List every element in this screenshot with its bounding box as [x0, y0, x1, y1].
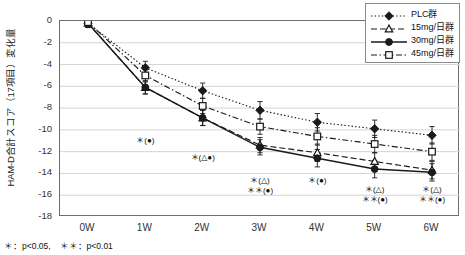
legend-swatch-icon [370, 21, 408, 33]
legend-swatch-icon [370, 8, 408, 20]
y-tick-label: -18 [18, 211, 56, 221]
data-point-marker [429, 148, 436, 155]
x-tick-label: 1W [137, 222, 152, 234]
data-point-marker [371, 166, 378, 173]
legend-label: 45mg/日群 [411, 47, 454, 59]
y-tick-label: -8 [18, 102, 56, 112]
data-point-marker [371, 141, 378, 148]
legend-item-15mg/日群[interactable]: 15mg/日群 [370, 20, 454, 33]
data-point-marker [314, 155, 321, 162]
x-tick-label: 5W [366, 222, 381, 234]
x-axis-tick-labels: 0W1W2W3W4W5W6W [59, 222, 459, 238]
legend-item-45mg/日群[interactable]: 45mg/日群 [370, 46, 454, 59]
y-tick-label: -14 [18, 167, 56, 177]
pvalue-legend-note: ＊：p<0.05, ＊＊：p<0.01 [4, 241, 113, 251]
data-point-marker [142, 72, 149, 79]
legend-swatch-icon [370, 47, 408, 59]
significance-annotation: ＊(●) [136, 136, 154, 145]
ham-d-line-chart: HAM-D合計スコア（17項目）変化量 0-2-4-6-8-10-12-14-1… [0, 0, 465, 255]
chart-legend: PLC群15mg/日群30mg/日群45mg/日群 [365, 3, 460, 63]
legend-label: 30mg/日群 [411, 34, 454, 46]
data-point-marker [385, 11, 393, 19]
significance-annotation: ＊＊(●) [419, 195, 445, 204]
data-point-marker [199, 115, 206, 122]
data-point-marker [199, 103, 206, 110]
data-point-marker [429, 169, 436, 176]
y-tick-label: -6 [18, 80, 56, 90]
y-tick-label: -2 [18, 37, 56, 47]
legend-label: PLC群 [411, 8, 438, 20]
data-point-marker [386, 38, 393, 45]
significance-annotation: ＊(△●) [191, 153, 215, 162]
data-point-marker [428, 131, 436, 139]
significance-annotation: ＊(△) [422, 185, 441, 194]
x-tick-label: 3W [252, 222, 267, 234]
data-point-marker [85, 21, 92, 25]
x-tick-label: 6W [424, 222, 439, 234]
data-point-marker [313, 118, 321, 126]
significance-annotation: ＊＊(●) [362, 195, 388, 204]
legend-item-30mg/日群[interactable]: 30mg/日群 [370, 33, 454, 46]
data-point-marker [257, 144, 264, 151]
y-tick-label: -10 [18, 124, 56, 134]
y-tick-label: -4 [18, 59, 56, 69]
significance-annotation: ＊(△) [365, 185, 384, 194]
data-point-marker [370, 125, 378, 133]
data-point-marker [386, 51, 393, 58]
data-point-marker [142, 84, 149, 91]
x-tick-label: 4W [309, 222, 324, 234]
y-tick-label: -12 [18, 146, 56, 156]
y-tick-label: -16 [18, 189, 56, 199]
x-tick-label: 0W [80, 222, 95, 234]
data-point-marker [257, 123, 264, 130]
significance-annotation: ＊＊(●) [247, 186, 273, 195]
y-tick-label: 0 [18, 15, 56, 25]
data-point-marker [314, 133, 321, 140]
data-point-marker [198, 86, 206, 94]
x-tick-label: 2W [194, 222, 209, 234]
legend-label: 15mg/日群 [411, 21, 454, 33]
significance-annotation: ＊(△) [250, 176, 269, 185]
data-point-marker [256, 106, 264, 114]
y-axis-tick-labels: 0-2-4-6-8-10-12-14-16-18 [18, 0, 56, 255]
legend-swatch-icon [370, 34, 408, 46]
significance-annotation: ＊(●) [308, 176, 326, 185]
legend-item-PLC群[interactable]: PLC群 [370, 7, 454, 20]
